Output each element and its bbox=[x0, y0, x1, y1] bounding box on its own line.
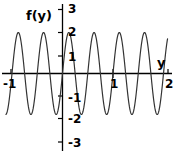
y-tick-label-2: 2 bbox=[68, 26, 76, 38]
x-tick-label-1: 1 bbox=[110, 78, 118, 90]
y-tick-label-minus-3: -3 bbox=[68, 137, 81, 149]
x-tick-label-minus-1: -1 bbox=[3, 78, 16, 90]
y-tick-label-minus-1: -1 bbox=[68, 92, 81, 104]
chart-figure: f(y) y 3 2 1 -1 -2 -3 -1 1 2 bbox=[0, 0, 175, 155]
y-axis-label: f(y) bbox=[26, 9, 52, 22]
plot-area bbox=[0, 0, 175, 155]
y-tick-label-1: 1 bbox=[68, 51, 76, 63]
x-tick-label-2: 2 bbox=[165, 78, 173, 90]
x-axis-label: y bbox=[157, 56, 165, 69]
y-tick-label-minus-2: -2 bbox=[68, 113, 81, 125]
y-tick-label-3: 3 bbox=[68, 3, 76, 15]
